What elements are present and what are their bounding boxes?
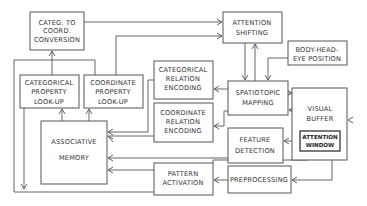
box-categorical-relation-encoding: CATEGORICAL RELATION ENCODING [154,61,213,99]
box-associative-memory: ASSOCIATIVE MEMORY [41,121,107,184]
input-arrow-visual-buffer [348,117,353,123]
svg-text:DETECTION: DETECTION [235,147,275,155]
svg-text:SPATIOTOPIC: SPATIOTOPIC [236,89,281,97]
svg-text:EYE POSITION: EYE POSITION [293,55,341,63]
box-pattern-activation: PATTERN ACTIVATION [154,163,213,195]
svg-text:LOOK-UP: LOOK-UP [98,98,128,106]
box-categ-to-coord-conversion: CATEG. TO COORD. CONVERSION [30,12,84,50]
svg-text:ENCODING: ENCODING [164,84,202,92]
connector-spatiotopic-to-coordrel [214,111,228,126]
svg-text:CONVERSION: CONVERSION [34,36,80,44]
svg-text:PATTERN: PATTERN [168,170,199,178]
box-feature-detection: FEATURE DETECTION [228,128,283,163]
box-body-head-eye-position: BODY-HEAD- EYE POSITION [288,41,347,65]
svg-text:PROPERTY: PROPERTY [95,88,131,96]
svg-text:RELATION: RELATION [166,118,200,126]
svg-text:PREPROCESSING: PREPROCESSING [230,176,288,184]
box-preprocessing: PREPROCESSING [228,166,291,193]
svg-text:MAPPING: MAPPING [242,99,274,107]
label: CATEG. TO [38,19,75,27]
svg-text:FEATURE: FEATURE [240,136,271,144]
svg-text:VISUAL: VISUAL [308,105,333,113]
svg-text:COORD.: COORD. [43,27,71,35]
connector-bodyhead-to-spatiotopic [268,58,288,80]
svg-text:BUFFER: BUFFER [307,115,334,123]
svg-text:ATTENTION: ATTENTION [233,19,272,27]
diagram-canvas: CATEG. TO COORD. CONVERSION ATTENTION SH… [0,0,367,206]
svg-text:ENCODING: ENCODING [164,127,202,135]
svg-text:MEMORY: MEMORY [59,154,90,162]
svg-text:SHIFTING: SHIFTING [236,29,268,37]
svg-text:BODY-HEAD-: BODY-HEAD- [295,46,338,54]
svg-text:LOOK-UP: LOOK-UP [34,98,64,106]
svg-text:ACTIVATION: ACTIVATION [162,179,203,187]
svg-text:CATEGORICAL: CATEGORICAL [25,79,74,87]
box-spatiotopic-mapping: SPATIOTOPIC MAPPING [228,81,288,115]
svg-text:ATTENTION: ATTENTION [302,134,338,140]
box-attention-shifting: ATTENTION SHIFTING [223,12,282,43]
box-coordinate-property-lookup: COORDINATE PROPERTY LOOK-UP [84,75,143,108]
box-coordinate-relation-encoding: COORDINATE RELATION ENCODING [154,103,213,142]
connector-frame-top [14,60,95,75]
svg-text:RELATION: RELATION [166,75,200,83]
box-attention-window: ATTENTION WINDOW [300,131,340,151]
svg-text:WINDOW: WINDOW [306,142,335,148]
svg-text:PROPERTY: PROPERTY [31,88,67,96]
svg-text:ASSOCIATIVE: ASSOCIATIVE [51,138,96,146]
svg-text:COORDINATE: COORDINATE [160,109,206,117]
svg-text:CATEGORICAL: CATEGORICAL [159,66,208,74]
box-categorical-property-lookup: CATEGORICAL PROPERTY LOOK-UP [20,75,79,108]
svg-text:COORDINATE: COORDINATE [90,79,136,87]
